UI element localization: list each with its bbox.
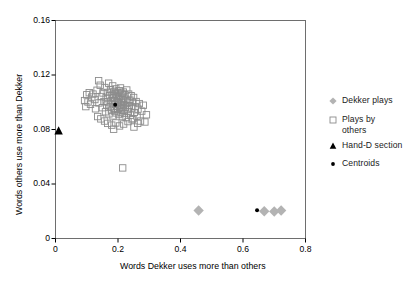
marker-dot (331, 162, 335, 166)
marker-diamond (259, 206, 269, 216)
marker-open-square (131, 124, 137, 130)
y-tick-label: 0 (10, 233, 50, 243)
y-tick-label: 0.12 (10, 69, 50, 79)
x-tick-label: 0.6 (234, 244, 252, 254)
x-tick-label: 0.8 (297, 244, 315, 254)
marker-open-square (95, 78, 101, 84)
marker-dot (255, 208, 259, 212)
y-axis-title: Words others use more than Dekker (14, 74, 24, 215)
marker-open-square (143, 112, 149, 118)
marker-open-square (120, 121, 126, 127)
marker-open-square (119, 165, 125, 171)
y-tick-label: 0.04 (10, 178, 50, 188)
marker-dot (113, 103, 117, 107)
marker-diamond (276, 205, 286, 215)
y-tick-label: 0.08 (10, 124, 50, 134)
legend-item-dekker-plays[interactable]: Dekker plays (342, 95, 393, 106)
x-axis-ticks (56, 239, 306, 243)
data-series-layer (54, 78, 286, 217)
marker-open-square (330, 117, 336, 123)
marker-open-square (83, 103, 89, 109)
y-tick-label: 0.16 (10, 15, 50, 25)
x-axis-title: Words Dekker uses more than others (120, 261, 266, 271)
marker-open-square (110, 126, 116, 132)
series-plays-by-others (81, 78, 149, 172)
legend-item-hand-d-section[interactable]: Hand-D section (342, 140, 402, 151)
marker-triangle (330, 142, 337, 148)
y-axis-ticks (52, 21, 56, 239)
x-tick-label: 0.2 (109, 244, 127, 254)
x-tick-label: 0 (47, 244, 65, 254)
legend-markers (329, 97, 336, 166)
x-tick-label: 0.4 (172, 244, 190, 254)
marker-open-square (105, 80, 111, 86)
legend-item-centroids[interactable]: Centroids (342, 158, 380, 169)
marker-open-square (109, 122, 115, 128)
marker-diamond (329, 97, 336, 104)
legend-item-plays-by-others[interactable]: Plays by others (342, 114, 375, 135)
series-dekker-plays (193, 205, 286, 216)
plot-frame (56, 21, 306, 239)
marker-diamond (193, 205, 203, 215)
plot-border (56, 21, 306, 239)
